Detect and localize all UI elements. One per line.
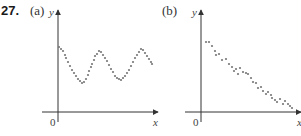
- data-point: [67, 61, 69, 63]
- data-point: [276, 101, 278, 103]
- data-point: [132, 61, 134, 63]
- data-point: [289, 105, 291, 107]
- data-point: [274, 99, 276, 101]
- data-point: [102, 54, 104, 56]
- data-point: [112, 71, 114, 73]
- data-point: [279, 98, 281, 100]
- data-point: [270, 94, 272, 96]
- data-point: [104, 57, 106, 59]
- data-point: [225, 58, 227, 60]
- data-point: [106, 60, 108, 62]
- data-point: [208, 41, 210, 43]
- data-point: [221, 59, 223, 61]
- data-point: [116, 77, 118, 79]
- data-point: [128, 69, 130, 71]
- panel-b-origin-label: 0: [193, 116, 199, 128]
- data-point: [62, 50, 64, 52]
- data-point: [90, 66, 92, 68]
- data-point: [150, 61, 152, 63]
- data-point: [252, 81, 254, 83]
- data-point: [93, 59, 95, 61]
- panel-b-points: [205, 41, 293, 109]
- data-point: [250, 77, 252, 79]
- data-point: [267, 91, 269, 93]
- data-point: [98, 50, 100, 52]
- data-point: [228, 63, 230, 65]
- data-point: [124, 75, 126, 77]
- data-point: [64, 54, 66, 56]
- data-point: [146, 55, 148, 57]
- data-point: [120, 79, 122, 81]
- data-point: [287, 103, 289, 105]
- data-point: [87, 74, 89, 76]
- panel-b-axes: y x 0: [185, 6, 301, 128]
- data-point: [247, 73, 249, 75]
- data-point: [85, 78, 87, 80]
- data-point: [140, 48, 142, 50]
- data-point: [65, 57, 67, 59]
- data-point: [257, 87, 259, 89]
- data-point: [214, 50, 216, 52]
- data-point: [79, 80, 81, 82]
- data-point: [75, 75, 77, 77]
- data-point: [245, 72, 247, 74]
- panel-a-x-label: x: [152, 116, 158, 128]
- data-point: [136, 54, 138, 56]
- data-point: [77, 78, 79, 80]
- data-point: [130, 65, 132, 67]
- data-point: [144, 52, 146, 54]
- data-point: [81, 82, 83, 84]
- data-point: [211, 45, 213, 47]
- data-point: [114, 75, 116, 77]
- data-point: [235, 68, 237, 70]
- data-point: [239, 67, 241, 69]
- panel-b-y-label: y: [191, 6, 197, 18]
- data-point: [260, 86, 262, 88]
- data-point: [151, 63, 153, 65]
- data-point: [60, 48, 62, 50]
- data-point: [237, 73, 239, 75]
- data-point: [255, 82, 257, 84]
- data-point: [148, 58, 150, 60]
- data-point: [88, 70, 90, 72]
- data-point: [110, 68, 112, 70]
- data-point: [284, 100, 286, 102]
- data-point: [262, 90, 264, 92]
- data-point: [282, 103, 284, 105]
- data-point: [233, 70, 235, 72]
- data-point: [205, 41, 207, 43]
- data-point: [142, 49, 144, 51]
- data-point: [265, 93, 267, 95]
- data-point: [96, 53, 98, 55]
- data-point: [58, 46, 60, 48]
- data-point: [94, 55, 96, 57]
- panel-a-origin-label: 0: [50, 116, 56, 128]
- data-point: [83, 81, 85, 83]
- data-point: [91, 63, 93, 65]
- scatter-plots: y x 0 y x 0: [0, 0, 301, 136]
- data-point: [242, 71, 244, 73]
- panel-b-x-label: x: [296, 116, 301, 128]
- data-point: [126, 72, 128, 74]
- data-point: [108, 64, 110, 66]
- panel-a-points: [58, 46, 153, 84]
- data-point: [71, 69, 73, 71]
- data-point: [122, 77, 124, 79]
- data-point: [218, 53, 220, 55]
- data-point: [271, 97, 273, 99]
- data-point: [138, 51, 140, 53]
- data-point: [134, 57, 136, 59]
- data-point: [73, 72, 75, 74]
- panel-a-y-label: y: [48, 6, 54, 18]
- data-point: [69, 65, 71, 67]
- data-point: [291, 107, 293, 109]
- data-point: [231, 66, 233, 68]
- data-point: [100, 51, 102, 53]
- panel-a-axes: y x 0: [42, 6, 158, 128]
- data-point: [118, 78, 120, 80]
- data-point: [215, 54, 217, 56]
